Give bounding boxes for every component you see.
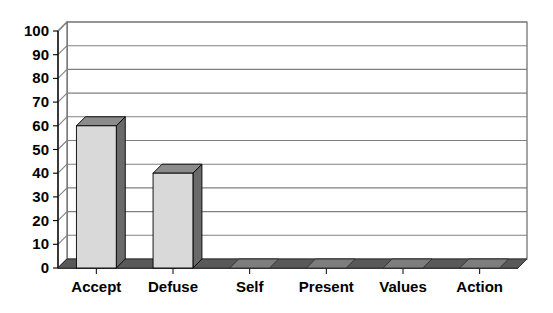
x-tick-label: Values	[379, 278, 427, 295]
x-tick-label: Present	[299, 278, 354, 295]
bar-self	[230, 259, 279, 268]
y-tick-label: 80	[32, 69, 49, 86]
bar-zero-slab	[383, 259, 432, 268]
bar-zero-slab	[460, 259, 509, 268]
bar-present	[306, 259, 355, 268]
x-tick-label: Action	[456, 278, 503, 295]
bar-side-face	[193, 164, 202, 268]
y-tick-label: 30	[32, 188, 49, 205]
bar-front-face	[153, 173, 193, 268]
bar-defuse	[153, 164, 202, 268]
bar-accept	[76, 117, 125, 268]
bar-action	[460, 259, 509, 268]
bar-top-face	[153, 164, 202, 173]
bar-zero-slab	[306, 259, 355, 268]
bar-side-face	[116, 117, 125, 268]
bar-top-face	[76, 117, 125, 126]
y-tick-label: 0	[41, 259, 49, 276]
bar-chart: 0102030405060708090100 AcceptDefuseSelfP…	[0, 0, 553, 313]
x-tick-label: Accept	[71, 278, 121, 295]
y-tick-label: 100	[24, 22, 49, 39]
y-tick-label: 20	[32, 212, 49, 229]
y-tick-label: 50	[32, 141, 49, 158]
y-tick-label: 90	[32, 46, 49, 63]
y-tick-label: 40	[32, 164, 49, 181]
chart-canvas: 0102030405060708090100 AcceptDefuseSelfP…	[0, 0, 553, 313]
x-tick-label: Self	[236, 278, 265, 295]
chart-floor	[58, 259, 527, 268]
y-tick-label: 60	[32, 117, 49, 134]
bar-values	[383, 259, 432, 268]
bar-zero-slab	[230, 259, 279, 268]
y-tick-label: 10	[32, 235, 49, 252]
bar-front-face	[76, 126, 116, 268]
x-tick-label: Defuse	[148, 278, 198, 295]
y-tick-label: 70	[32, 93, 49, 110]
plot-walls	[58, 22, 527, 268]
floor-slab	[58, 259, 527, 268]
